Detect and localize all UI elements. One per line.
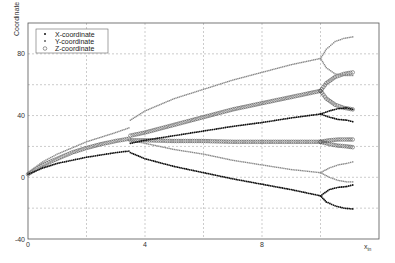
data-point-y bbox=[252, 163, 253, 164]
data-point-y bbox=[337, 180, 338, 181]
data-point-y bbox=[258, 73, 259, 74]
data-point-x bbox=[350, 208, 352, 210]
data-point-x bbox=[259, 183, 261, 185]
data-point-x bbox=[189, 169, 191, 171]
data-point-y bbox=[220, 83, 221, 84]
data-point-y bbox=[165, 147, 166, 148]
data-point-y bbox=[318, 172, 319, 173]
data-point-x bbox=[230, 178, 232, 180]
data-point-x bbox=[184, 133, 186, 135]
data-point-x bbox=[135, 141, 137, 143]
data-point-x bbox=[243, 124, 245, 126]
data-point-x bbox=[287, 118, 289, 120]
data-point-x bbox=[140, 140, 142, 142]
data-point-y bbox=[291, 169, 292, 170]
data-point-y bbox=[169, 100, 170, 101]
data-point-x bbox=[337, 119, 339, 121]
data-point-y bbox=[52, 156, 53, 157]
data-point-x bbox=[290, 189, 292, 191]
data-point-x bbox=[323, 114, 325, 116]
data-point-x bbox=[128, 150, 130, 152]
data-point-y bbox=[343, 75, 344, 76]
data-point-y bbox=[229, 159, 230, 160]
data-point-y bbox=[297, 63, 298, 64]
data-point-y bbox=[352, 36, 353, 37]
data-point-y bbox=[276, 167, 277, 168]
data-point-y bbox=[236, 79, 237, 80]
data-point-y bbox=[321, 56, 322, 57]
data-point-y bbox=[140, 113, 141, 114]
data-point-x bbox=[201, 171, 203, 173]
data-point-x bbox=[86, 156, 88, 158]
data-point-x bbox=[335, 187, 337, 189]
data-point-x bbox=[350, 120, 352, 122]
data-point-y bbox=[239, 161, 240, 162]
data-point-y bbox=[122, 130, 123, 131]
data-point-x bbox=[228, 126, 230, 128]
data-point-y bbox=[132, 140, 133, 141]
data-point-x bbox=[80, 158, 82, 160]
data-point-y bbox=[112, 133, 113, 134]
data-point-y bbox=[141, 112, 142, 113]
data-point-y bbox=[136, 116, 137, 117]
x-tick-label: 8 bbox=[260, 241, 264, 248]
data-point-x bbox=[344, 107, 346, 109]
data-point-y bbox=[263, 165, 264, 166]
data-point-y bbox=[194, 91, 195, 92]
data-point-x bbox=[143, 157, 145, 159]
data-point-y bbox=[131, 119, 132, 120]
data-point-x bbox=[144, 139, 146, 141]
data-point-y bbox=[348, 181, 349, 182]
data-point-y bbox=[172, 149, 173, 150]
data-point-x bbox=[153, 138, 155, 140]
data-point-y bbox=[181, 150, 182, 151]
data-point-x bbox=[113, 152, 115, 154]
data-point-x bbox=[214, 128, 216, 130]
data-point-y bbox=[330, 167, 331, 168]
data-point-y bbox=[83, 143, 84, 144]
data-point-x bbox=[77, 158, 79, 160]
data-point-x bbox=[275, 186, 277, 188]
data-point-y bbox=[284, 66, 285, 67]
data-point-x bbox=[241, 180, 243, 182]
data-point-y bbox=[268, 70, 269, 71]
data-point-x bbox=[246, 181, 248, 183]
data-point-x bbox=[194, 132, 196, 134]
data-point-x bbox=[163, 163, 165, 165]
data-point-y bbox=[341, 38, 342, 39]
data-point-x bbox=[139, 141, 141, 143]
data-point-x bbox=[272, 120, 274, 122]
data-point-y bbox=[97, 138, 98, 139]
data-point-x bbox=[228, 177, 230, 179]
data-point-y bbox=[270, 166, 271, 167]
data-point-y bbox=[210, 155, 211, 156]
data-point-y bbox=[303, 61, 304, 62]
data-point-y bbox=[164, 102, 165, 103]
data-point-x bbox=[191, 169, 193, 171]
data-point-x bbox=[237, 125, 239, 127]
data-point-y bbox=[185, 151, 186, 152]
data-point-y bbox=[183, 150, 184, 151]
data-point-y bbox=[117, 131, 118, 132]
data-point-x bbox=[334, 118, 336, 120]
data-point-x bbox=[148, 139, 150, 141]
data-point-x bbox=[151, 160, 153, 162]
data-point-y bbox=[316, 59, 317, 60]
data-point-x bbox=[137, 141, 139, 143]
data-point-x bbox=[253, 182, 255, 184]
data-point-x bbox=[263, 184, 265, 186]
data-point-y bbox=[45, 159, 46, 160]
data-point-y bbox=[248, 75, 249, 76]
data-point-y bbox=[350, 162, 351, 163]
data-point-y bbox=[186, 151, 187, 152]
data-point-y bbox=[346, 163, 347, 164]
data-point-y bbox=[273, 69, 274, 70]
data-point-x bbox=[236, 125, 238, 127]
data-point-y bbox=[324, 64, 325, 65]
data-point-y bbox=[104, 135, 105, 136]
data-point-y bbox=[330, 70, 331, 71]
data-point-y bbox=[193, 92, 194, 93]
data-point-y bbox=[269, 165, 270, 166]
data-point-y bbox=[187, 94, 188, 95]
data-point-y bbox=[201, 89, 202, 90]
